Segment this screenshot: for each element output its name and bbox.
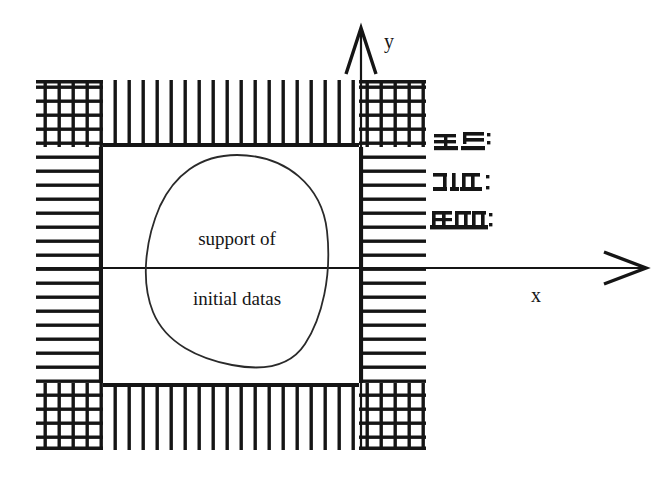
support-label-line-1: support of	[198, 228, 276, 249]
x-axis-label: x	[531, 284, 541, 306]
boundary-band-bottom	[103, 383, 359, 450]
boundary-corner-bottom-left	[36, 383, 103, 450]
glyph-block-1-icon	[434, 132, 490, 150]
boundary-band-top	[103, 80, 359, 147]
boundary-corner-top-right	[359, 80, 426, 147]
diagram-canvas: support of initial datas y x	[0, 0, 666, 480]
marginal-glyph-artifacts	[430, 125, 500, 240]
support-label-line-2: initial datas	[193, 288, 281, 309]
figure-root: support of initial datas y x	[0, 0, 666, 480]
boundary-corner-bottom-right	[359, 383, 426, 450]
y-axis-label: y	[384, 30, 394, 53]
domain-interior	[103, 147, 359, 383]
glyph-block-2-icon	[433, 173, 489, 191]
boundary-band-right	[359, 147, 426, 383]
hatched-boundary-layer	[36, 80, 426, 450]
glyph-block-3-icon	[430, 211, 492, 229]
boundary-band-left	[36, 147, 103, 383]
boundary-corner-top-left	[36, 80, 103, 147]
